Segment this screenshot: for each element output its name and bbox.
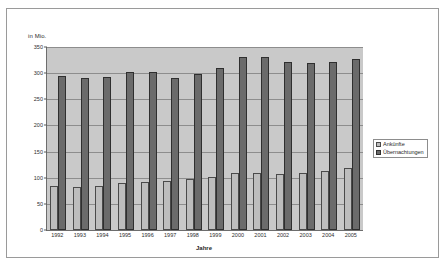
bar-group	[115, 47, 138, 230]
x-tick-label-1999: 1999	[204, 232, 227, 238]
bar-uebernachtungen-1994	[103, 77, 111, 230]
bar-ankuenfte-1994	[95, 186, 103, 230]
y-tick-label-0: 0	[40, 227, 43, 233]
chart-legend: AnkünfteÜbernachtungen	[373, 139, 428, 158]
legend-item-label: Ankünfte	[383, 142, 405, 148]
x-tick-label-1993: 1993	[69, 232, 92, 238]
bar-group	[205, 47, 228, 230]
bar-uebernachtungen-2002	[284, 62, 292, 230]
bar-uebernachtungen-2000	[239, 57, 247, 230]
bar-group	[92, 47, 115, 230]
bar-group	[228, 47, 251, 230]
bar-group	[182, 47, 205, 230]
legend-item-label: Übernachtungen	[383, 150, 424, 156]
bar-ankuenfte-1996	[141, 182, 149, 230]
bar-ankuenfte-2002	[276, 174, 284, 230]
bar-group	[160, 47, 183, 230]
bar-uebernachtungen-1993	[81, 78, 89, 230]
x-tick-label-2001: 2001	[249, 232, 272, 238]
bar-ankuenfte-1995	[118, 183, 126, 230]
legend-item[interactable]: Übernachtungen	[376, 150, 424, 156]
x-tick-label-2002: 2002	[272, 232, 295, 238]
chart-outer-frame: in Mio. 350300250200150100500 1992199319…	[6, 8, 439, 258]
bar-uebernachtungen-1992	[58, 76, 66, 230]
x-tick-label-1998: 1998	[181, 232, 204, 238]
y-axis-unit-label: in Mio.	[28, 33, 46, 39]
y-tick-label-200: 200	[34, 122, 43, 128]
x-tick-label-2005: 2005	[340, 232, 363, 238]
bar-group	[318, 47, 341, 230]
dark-gray-swatch	[376, 150, 381, 155]
bar-ankuenfte-2005	[344, 168, 352, 230]
bar-uebernachtungen-1998	[194, 74, 202, 230]
bar-ankuenfte-2000	[231, 173, 239, 231]
x-axis-title: Jahre	[46, 245, 362, 251]
y-tick-label-250: 250	[34, 96, 43, 102]
y-tick-label-300: 300	[34, 70, 43, 76]
x-tick-label-1994: 1994	[91, 232, 114, 238]
chart-page: in Mio. 350300250200150100500 1992199319…	[0, 0, 447, 266]
x-tick-label-1995: 1995	[114, 232, 137, 238]
y-tick-label-150: 150	[34, 149, 43, 155]
x-tick-label-1992: 1992	[46, 232, 69, 238]
bar-ankuenfte-2001	[253, 173, 261, 231]
light-gray-swatch	[376, 142, 381, 147]
x-tick-label-1996: 1996	[136, 232, 159, 238]
bar-group	[295, 47, 318, 230]
bar-uebernachtungen-2003	[307, 63, 315, 230]
bar-group	[341, 47, 364, 230]
bar-ankuenfte-2003	[299, 173, 307, 230]
bar-ankuenfte-2004	[321, 171, 329, 230]
bar-group	[137, 47, 160, 230]
y-tick-label-50: 50	[37, 201, 43, 207]
bar-uebernachtungen-1995	[126, 72, 134, 230]
x-axis-tick-labels: 1992199319941995199619971998199920002001…	[46, 232, 362, 238]
bar-uebernachtungen-2005	[352, 59, 360, 230]
legend-item[interactable]: Ankünfte	[376, 142, 424, 148]
bar-uebernachtungen-2001	[261, 57, 269, 230]
y-tick-label-350: 350	[34, 44, 43, 50]
bar-ankuenfte-1993	[73, 187, 81, 230]
bar-group	[250, 47, 273, 230]
bar-ankuenfte-1998	[186, 179, 194, 230]
bar-ankuenfte-1997	[163, 181, 171, 230]
plot-area: 350300250200150100500	[46, 47, 363, 231]
x-tick-label-2004: 2004	[317, 232, 340, 238]
bar-uebernachtungen-1999	[216, 68, 224, 230]
bar-ankuenfte-1999	[208, 177, 216, 230]
bar-uebernachtungen-1996	[149, 72, 157, 230]
bar-uebernachtungen-1997	[171, 78, 179, 230]
bar-uebernachtungen-2004	[329, 62, 337, 230]
bar-group	[47, 47, 70, 230]
bar-group	[70, 47, 93, 230]
y-tick-label-100: 100	[34, 175, 43, 181]
x-tick-label-1997: 1997	[159, 232, 182, 238]
bar-ankuenfte-1992	[50, 186, 58, 230]
bar-group	[273, 47, 296, 230]
x-tick-label-2003: 2003	[294, 232, 317, 238]
x-tick-label-2000: 2000	[227, 232, 250, 238]
bar-groups	[47, 47, 363, 230]
